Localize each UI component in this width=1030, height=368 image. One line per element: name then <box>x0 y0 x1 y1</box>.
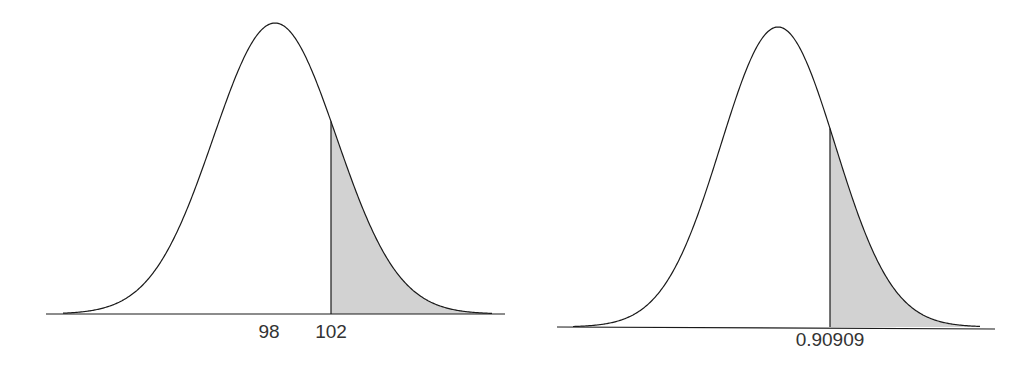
left-tick-label-cutoff: 102 <box>315 321 347 342</box>
right-density-curve <box>573 27 980 327</box>
right-tick-label-cutoff: 0.90909 <box>796 329 865 350</box>
right-shaded-tail <box>830 129 980 327</box>
left-tick-label-mean: 98 <box>258 321 279 342</box>
normal-curves-figure: 98 102 0.90909 <box>0 0 1030 368</box>
chart-right: 0.90909 <box>557 27 995 350</box>
left-density-curve <box>63 23 492 313</box>
chart-left: 98 102 <box>46 23 505 342</box>
right-x-axis <box>557 327 995 329</box>
left-shaded-tail <box>331 122 492 315</box>
